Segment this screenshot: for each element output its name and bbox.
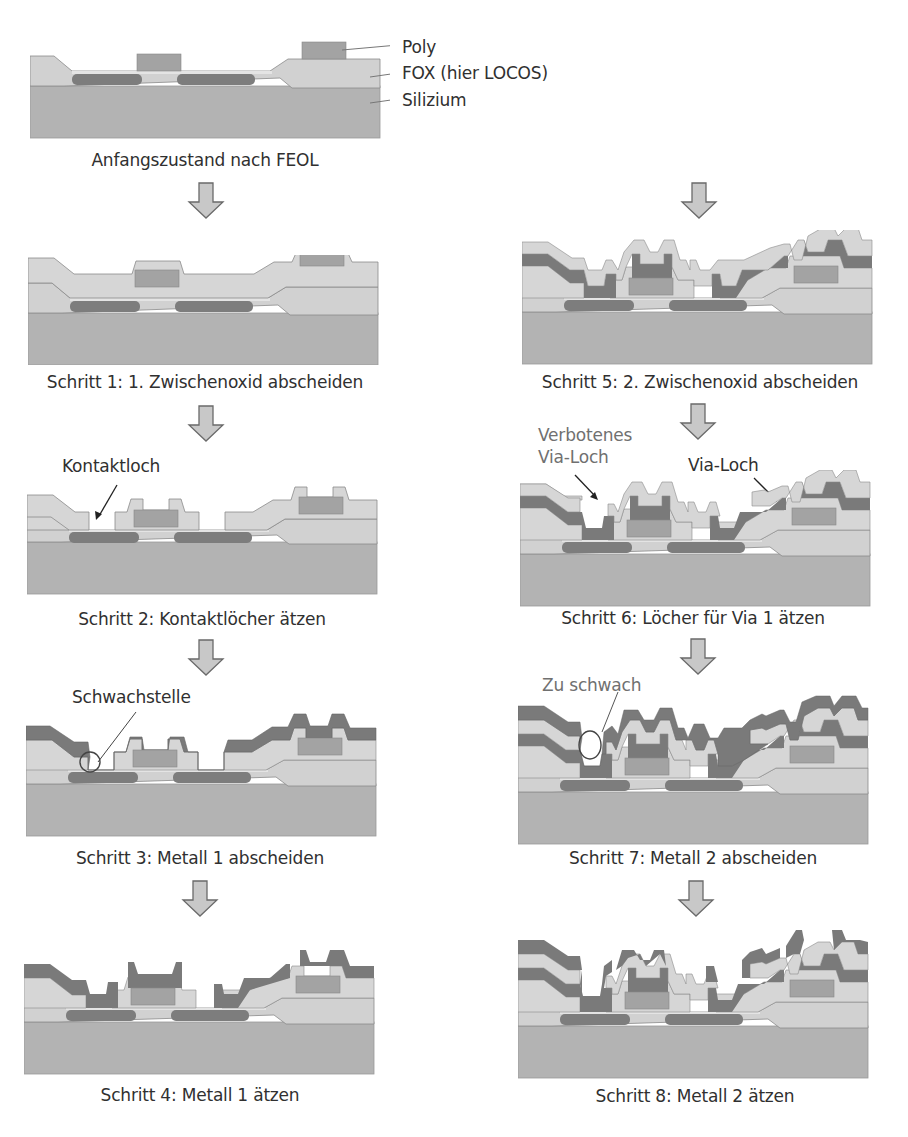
annotation-verbotenes-line1: Verbotenes bbox=[538, 425, 632, 445]
panel-step2 bbox=[27, 480, 387, 600]
panel-step3 bbox=[26, 712, 386, 842]
panel-step1 bbox=[28, 255, 388, 365]
cross-section-step8 bbox=[518, 930, 878, 1090]
panel-step0 bbox=[30, 40, 390, 160]
cross-section-step2 bbox=[27, 480, 387, 600]
panel-step6 bbox=[520, 470, 880, 610]
arrow-down-icon bbox=[180, 880, 220, 920]
caption-step7: Schritt 7: Metall 2 abscheiden bbox=[569, 848, 817, 868]
cross-section-step6 bbox=[520, 470, 880, 610]
caption-step3: Schritt 3: Metall 1 abscheiden bbox=[76, 848, 324, 868]
arrow-down-icon bbox=[678, 403, 718, 443]
arrow-down-icon bbox=[186, 639, 226, 679]
caption-step2: Schritt 2: Kontaktlöcher ätzen bbox=[78, 609, 326, 629]
cross-section-step4 bbox=[24, 948, 384, 1078]
panel-step4 bbox=[24, 948, 384, 1078]
cross-section-step5 bbox=[522, 230, 882, 370]
panel-step7 bbox=[518, 692, 878, 852]
arrow-down-icon bbox=[186, 405, 226, 445]
arrow-down-icon bbox=[678, 638, 718, 678]
legend-silicon: Silizium bbox=[402, 90, 466, 110]
cross-section-step7 bbox=[518, 692, 878, 852]
arrow-down-icon bbox=[679, 182, 719, 222]
caption-step6: Schritt 6: Löcher für Via 1 ätzen bbox=[561, 608, 825, 628]
legend-fox: FOX (hier LOCOS) bbox=[402, 63, 548, 83]
annotation-kontaktloch: Kontaktloch bbox=[62, 456, 160, 476]
caption-step0: Anfangszustand nach FEOL bbox=[91, 150, 318, 170]
caption-step4: Schritt 4: Metall 1 ätzen bbox=[101, 1085, 300, 1105]
panel-step8 bbox=[518, 930, 878, 1090]
cross-section-step0 bbox=[30, 40, 390, 140]
caption-step8: Schritt 8: Metall 2 ätzen bbox=[596, 1086, 795, 1106]
caption-step5: Schritt 5: 2. Zwischenoxid abscheiden bbox=[542, 372, 858, 392]
arrow-down-icon bbox=[676, 880, 716, 920]
caption-step1: Schritt 1: 1. Zwischenoxid abscheiden bbox=[47, 372, 363, 392]
legend-poly: Poly bbox=[402, 37, 436, 57]
annotation-schwachstelle: Schwachstelle bbox=[72, 687, 191, 707]
arrow-down-icon bbox=[186, 182, 226, 222]
annotation-verbotenes-line2: Via-Loch bbox=[538, 447, 609, 467]
cross-section-step1 bbox=[28, 255, 388, 365]
cross-section-step3 bbox=[26, 712, 386, 842]
panel-step5 bbox=[522, 230, 882, 370]
